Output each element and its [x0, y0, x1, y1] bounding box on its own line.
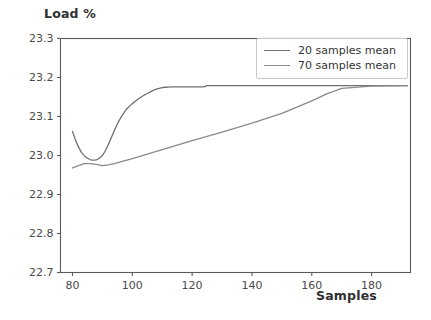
legend-label: 70 samples mean — [298, 59, 396, 72]
legend-item: 20 samples mean — [264, 43, 400, 58]
legend-color-swatch — [264, 50, 290, 51]
chart-figure: Load % Samples 22.722.822.923.023.123.22… — [0, 0, 431, 320]
x-tick-label: 180 — [352, 279, 392, 292]
y-tick-label: 23.2 — [12, 71, 54, 84]
y-tick-label: 23.1 — [12, 110, 54, 123]
legend-color-swatch — [264, 65, 290, 66]
x-tick-label: 160 — [292, 279, 332, 292]
x-tick-label: 100 — [112, 279, 152, 292]
x-tick-label: 140 — [232, 279, 272, 292]
y-tick-label: 22.7 — [12, 266, 54, 279]
chart-legend: 20 samples mean70 samples mean — [256, 38, 408, 79]
series-lines — [72, 86, 407, 168]
legend-item: 70 samples mean — [264, 58, 400, 73]
series-line — [72, 86, 407, 168]
legend-label: 20 samples mean — [298, 44, 396, 57]
y-tick-label: 23.3 — [12, 32, 54, 45]
x-tick-label: 80 — [52, 279, 92, 292]
series-line — [72, 86, 407, 160]
y-axis-label: Load % — [44, 6, 96, 21]
y-tick-label: 23.0 — [12, 149, 54, 162]
y-tick-label: 22.8 — [12, 227, 54, 240]
y-tick-label: 22.9 — [12, 188, 54, 201]
x-tick-label: 120 — [172, 279, 212, 292]
